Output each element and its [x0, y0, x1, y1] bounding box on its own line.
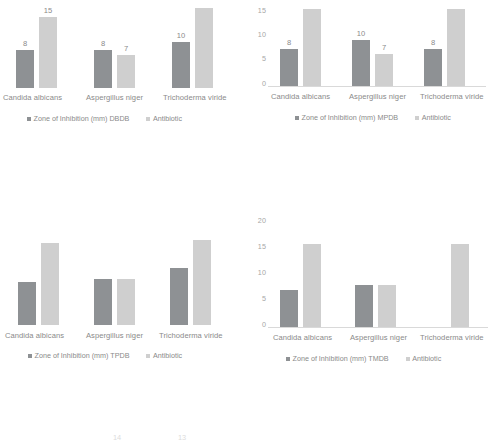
category-label-1: Candida albicans — [271, 92, 330, 101]
bar-secondary-3[interactable] — [195, 8, 213, 88]
bar-secondary-3[interactable] — [447, 9, 465, 86]
legend-swatch-primary-icon — [295, 116, 299, 120]
legend-label-secondary: Antibiotic — [153, 352, 182, 360]
legend-tmdb: Zone of Inhibition (mm) TMDB Antibiotic — [286, 355, 441, 363]
legend-dbdb: Zone of Inhibition (mm) DBDB Antibiotic — [27, 115, 182, 123]
bar-group-2: 10 7 — [352, 6, 393, 86]
legend-entry-secondary[interactable]: Antibiotic — [415, 114, 451, 122]
chart-tpdb: Candida albicans Aspergillus niger Trich… — [0, 228, 246, 373]
bar-group-3: 10 — [172, 8, 213, 88]
data-label-1-2: 15 — [39, 7, 57, 15]
bar-secondary-3[interactable] — [451, 244, 469, 327]
legend-label-primary: Zone of Inhibition (mm) TMDB — [293, 355, 389, 363]
plot-area-tmdb — [270, 222, 488, 327]
category-label-1: Candida albicans — [5, 331, 64, 340]
y-tick-5: 5 — [262, 295, 266, 302]
y-tick-0: 0 — [262, 321, 266, 328]
bar-secondary-2[interactable] — [375, 54, 393, 86]
chart-dbdb: 8 15 8 7 10 Candida albicans Aspergillus… — [0, 0, 246, 135]
bar-primary-1[interactable] — [280, 49, 298, 86]
bar-secondary-3[interactable] — [193, 240, 211, 325]
legend-swatch-secondary-icon — [146, 117, 150, 121]
bar-group-3: 8 — [424, 6, 465, 86]
legend-entry-secondary[interactable]: Antibiotic — [146, 115, 182, 123]
bar-secondary-1[interactable] — [303, 9, 321, 86]
bar-group-1 — [280, 222, 321, 327]
bar-primary-2[interactable] — [352, 40, 370, 86]
category-label-1: Candida albicans — [3, 93, 62, 102]
x-axis-line-tmdb — [268, 327, 488, 328]
data-label-1-1: 8 — [16, 40, 34, 48]
y-tick-15: 15 — [258, 7, 266, 14]
data-label-2-1: 8 — [94, 40, 112, 48]
bar-secondary-2[interactable] — [117, 55, 135, 88]
category-label-2: Aspergillus niger — [350, 333, 407, 342]
bar-group-2 — [355, 222, 396, 327]
bar-primary-3[interactable] — [170, 268, 188, 325]
x-axis-line-mpdb — [268, 86, 486, 87]
category-label-2: Aspergillus niger — [86, 331, 143, 340]
category-label-3: Trichoderma viride — [420, 333, 484, 342]
category-label-2: Aspergillus niger — [349, 92, 406, 101]
bar-primary-2[interactable] — [355, 285, 373, 327]
bar-secondary-2[interactable] — [378, 285, 396, 327]
bar-group-2: 8 7 — [94, 8, 135, 88]
data-label-1-1: 8 — [280, 39, 298, 47]
legend-label-primary: Zone of Inhibition (mm) DBDB — [34, 115, 130, 123]
bar-secondary-1[interactable] — [41, 243, 59, 325]
data-label-2-2: 7 — [117, 45, 135, 53]
bar-group-2 — [94, 228, 135, 325]
bar-primary-1[interactable] — [16, 50, 34, 88]
y-tick-0: 0 — [262, 80, 266, 87]
legend-label-secondary: Antibiotic — [153, 115, 182, 123]
data-label-3-1: 8 — [424, 39, 442, 47]
legend-entry-primary[interactable]: Zone of Inhibition (mm) TMDB — [286, 355, 389, 363]
chart-tmdb: 20 15 10 5 0 Candida albicans Aspergillu… — [246, 210, 493, 370]
legend-entry-primary[interactable]: Zone of Inhibition (mm) DBDB — [27, 115, 129, 123]
legend-label-primary: Zone of Inhibition (mm) TPDB — [35, 352, 130, 360]
bar-group-1: 8 15 — [16, 8, 57, 88]
bar-primary-3[interactable] — [172, 42, 190, 88]
data-label-2-1: 10 — [352, 30, 370, 38]
stray-data-label-14: 14 — [113, 434, 121, 442]
plot-area-mpdb: 8 10 7 8 — [270, 6, 486, 86]
bar-primary-1[interactable] — [18, 282, 36, 325]
bar-group-3 — [170, 228, 211, 325]
bar-primary-3[interactable] — [424, 49, 442, 86]
category-label-3: Trichoderma viride — [159, 331, 223, 340]
legend-swatch-primary-icon — [286, 357, 290, 361]
category-label-3: Trichoderma viride — [420, 92, 484, 101]
bar-primary-2[interactable] — [94, 279, 112, 325]
plot-area-dbdb: 8 15 8 7 10 — [10, 8, 236, 88]
legend-label-secondary: Antibiotic — [422, 114, 451, 122]
bar-primary-1[interactable] — [280, 290, 298, 327]
legend-swatch-secondary-icon — [415, 116, 419, 120]
stray-data-label-13: 13 — [178, 434, 186, 442]
y-tick-20: 20 — [258, 217, 266, 224]
category-label-3: Trichoderma viride — [163, 93, 227, 102]
bar-secondary-1[interactable] — [39, 17, 57, 88]
y-axis-mpdb: 15 10 5 0 — [250, 8, 266, 86]
legend-swatch-primary-icon — [27, 117, 31, 121]
y-axis-tmdb: 20 15 10 5 0 — [250, 218, 266, 323]
bar-primary-2[interactable] — [94, 50, 112, 88]
bar-secondary-2[interactable] — [117, 279, 135, 325]
bar-group-1: 8 — [280, 6, 321, 86]
legend-entry-primary[interactable]: Zone of Inhibition (mm) MPDB — [295, 114, 398, 122]
data-label-3-1: 10 — [172, 32, 190, 40]
category-label-2: Aspergillus niger — [86, 93, 143, 102]
bar-group-1 — [18, 228, 59, 325]
legend-entry-primary[interactable]: Zone of Inhibition (mm) TPDB — [28, 352, 129, 360]
legend-tpdb: Zone of Inhibition (mm) TPDB Antibiotic — [28, 352, 182, 360]
legend-entry-secondary[interactable]: Antibiotic — [406, 355, 442, 363]
bar-secondary-1[interactable] — [303, 244, 321, 327]
data-label-2-2: 7 — [375, 44, 393, 52]
legend-label-primary: Zone of Inhibition (mm) MPDB — [302, 114, 399, 122]
bar-group-3 — [428, 222, 469, 327]
y-tick-10: 10 — [258, 269, 266, 276]
legend-entry-secondary[interactable]: Antibiotic — [146, 352, 182, 360]
legend-swatch-secondary-icon — [406, 357, 410, 361]
plot-area-tpdb — [10, 228, 236, 325]
y-tick-5: 5 — [262, 55, 266, 62]
chart-mpdb: 15 10 5 0 8 10 7 8 Candid — [246, 0, 493, 135]
